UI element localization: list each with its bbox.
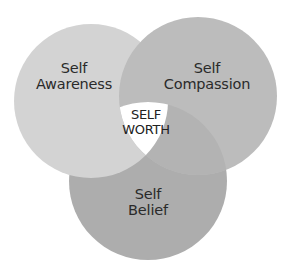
label-self-compassion: Self Compassion bbox=[152, 60, 262, 92]
venn-diagram bbox=[0, 0, 292, 276]
label-self-awareness: Self Awareness bbox=[24, 60, 124, 92]
label-self-compassion-line2: Compassion bbox=[152, 76, 262, 92]
label-self-worth: SELF WORTH bbox=[116, 107, 176, 137]
label-self-belief: Self Belief bbox=[108, 186, 188, 218]
label-self-worth-line1: SELF bbox=[116, 107, 176, 122]
label-self-compassion-line1: Self bbox=[152, 60, 262, 76]
label-self-awareness-line1: Self bbox=[24, 60, 124, 76]
label-self-belief-line2: Belief bbox=[108, 202, 188, 218]
label-self-worth-line2: WORTH bbox=[116, 122, 176, 137]
label-self-belief-line1: Self bbox=[108, 186, 188, 202]
label-self-awareness-line2: Awareness bbox=[24, 76, 124, 92]
